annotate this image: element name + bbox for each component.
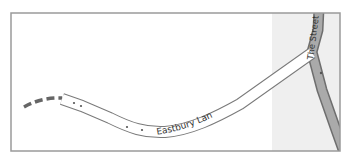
road-node-dot [141,129,143,131]
road-node-dot [73,102,75,104]
road-node-dot [80,105,82,107]
road-node-dot [126,126,128,128]
map-view[interactable]: Eastbury Lane The Street [0,0,354,157]
road-node-dot [320,72,322,74]
